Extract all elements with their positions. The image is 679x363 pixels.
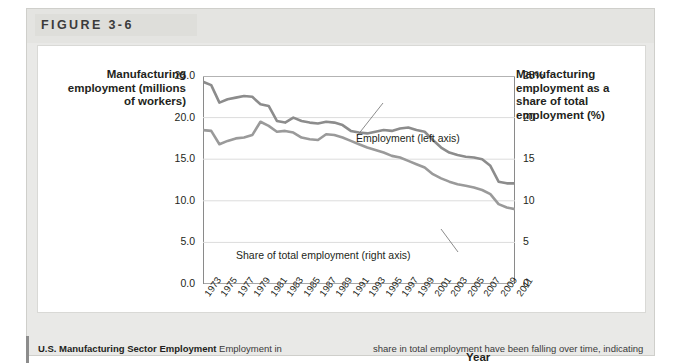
caption-left-text: Employment in — [219, 343, 282, 354]
figure-number-label: FIGURE 3-6 — [41, 18, 134, 32]
figure-header-bar: FIGURE 3-6 — [27, 9, 654, 43]
leader-line-share — [441, 229, 458, 252]
y-axis-tick-label: 5.0 — [161, 235, 195, 247]
y2-axis-tick-label: 25% — [523, 69, 557, 81]
y2-axis-tick-label: 5 — [523, 235, 557, 247]
annotation-employment-label: Employment (left axis) — [356, 132, 460, 144]
y2-axis-tick-label: 10 — [523, 194, 557, 206]
caption-right-column: share in total employment have been fall… — [373, 343, 643, 354]
y2-axis-tick-label: 15 — [523, 152, 557, 164]
caption-left-column: U.S. Manufacturing Sector Employment Emp… — [38, 343, 282, 354]
y-axis-tick-label: 0.0 — [161, 277, 195, 289]
caption-bar: U.S. Manufacturing Sector Employment Emp… — [26, 336, 655, 363]
y-axis-tick-label: 25.0 — [161, 69, 195, 81]
y2-axis-tick-label: 20 — [523, 111, 557, 123]
figure-frame: FIGURE 3-6 Manufacturing employment (mil… — [26, 8, 655, 356]
caption-title: U.S. Manufacturing Sector Employment — [38, 343, 216, 354]
caption-right-text: share in total employment have been fall… — [373, 343, 643, 354]
y-axis-tick-label: 10.0 — [161, 194, 195, 206]
y-axis-tick-label: 15.0 — [161, 152, 195, 164]
annotation-share-label: Share of total employment (right axis) — [236, 249, 411, 261]
y-axis-tick-label: 20.0 — [161, 111, 195, 123]
chart-canvas: Manufacturing employment (millions of wo… — [37, 45, 646, 313]
